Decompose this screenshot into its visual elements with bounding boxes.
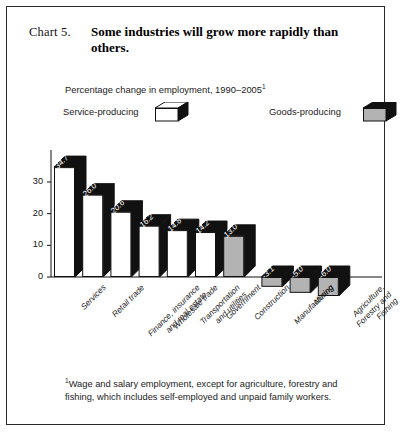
y-tick-30: 30 xyxy=(25,176,43,186)
y-tick-10: 10 xyxy=(25,239,43,249)
y-tick-20: 20 xyxy=(25,208,43,218)
y-tick-0: 0 xyxy=(25,271,43,281)
plot-svg xyxy=(7,7,386,426)
bar-chart-plot xyxy=(7,7,386,426)
chart-frame: Chart 5. Some industries will grow more … xyxy=(6,6,385,425)
footnote-text: Wage and salary employment, except for a… xyxy=(65,379,338,402)
chart-footnote: 1Wage and salary employment, except for … xyxy=(65,375,365,403)
